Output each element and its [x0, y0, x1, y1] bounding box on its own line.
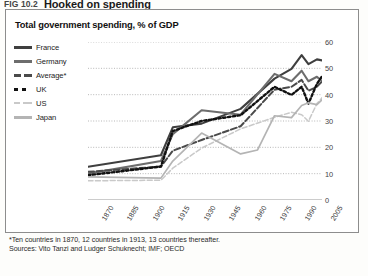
legend-item-average: Average*: [14, 68, 86, 82]
x-tick-2005: 2005: [328, 204, 344, 222]
y-tick-60: 60: [325, 38, 333, 47]
figure-container: FIG 10.2 Hooked on spending Total govern…: [0, 0, 368, 276]
legend-swatch-average: [14, 70, 32, 80]
legend-item-germany: Germany: [14, 54, 86, 68]
footnote-line-2: Sources: Vito Tanzi and Ludger Schuknech…: [9, 245, 359, 254]
legend-swatch-japan: [14, 112, 32, 122]
y-tick-10: 10: [325, 169, 333, 178]
x-tick-1945: 1945: [227, 204, 243, 222]
chart-footnote: *Ten countries in 1870, 12 countries in …: [9, 236, 359, 255]
x-tick-1930: 1930: [201, 204, 217, 222]
legend-label-average: Average*: [36, 71, 66, 80]
legend-label-uk: UK: [36, 85, 46, 94]
legend-item-us: US: [14, 96, 86, 110]
figure-number: FIG 10.2: [4, 0, 38, 9]
legend-label-us: US: [36, 99, 46, 108]
x-tick-1885: 1885: [125, 204, 141, 222]
x-tick-1960: 1960: [252, 204, 268, 222]
legend-item-japan: Japan: [14, 110, 86, 124]
line-chart-svg: [88, 42, 322, 200]
x-tick-1990: 1990: [303, 204, 319, 222]
x-axis-labels: 1870188519001915193019451960197519902005: [0, 204, 368, 234]
y-tick-20: 20: [325, 143, 333, 152]
chart-legend: France Germany Average* UK US Japan: [14, 40, 86, 124]
x-tick-1870: 1870: [100, 204, 116, 222]
legend-swatch-germany: [14, 56, 32, 66]
y-axis-labels: 0102030405060: [325, 42, 355, 200]
legend-label-japan: Japan: [36, 113, 56, 122]
chart-subtitle: Total government spending, % of GDP: [15, 20, 178, 30]
y-tick-40: 40: [325, 90, 333, 99]
x-tick-1900: 1900: [150, 204, 166, 222]
y-tick-30: 30: [325, 117, 333, 126]
legend-label-france: France: [36, 43, 59, 52]
legend-swatch-uk: [14, 84, 32, 94]
legend-swatch-france: [14, 42, 32, 52]
y-tick-50: 50: [325, 64, 333, 73]
legend-item-france: France: [14, 40, 86, 54]
plot-area: [88, 42, 322, 200]
footnote-line-1: *Ten countries in 1870, 12 countries in …: [9, 236, 359, 245]
legend-item-uk: UK: [14, 82, 86, 96]
legend-label-germany: Germany: [36, 57, 67, 66]
x-tick-1915: 1915: [176, 204, 192, 222]
x-tick-1975: 1975: [278, 204, 294, 222]
legend-swatch-us: [14, 98, 32, 108]
